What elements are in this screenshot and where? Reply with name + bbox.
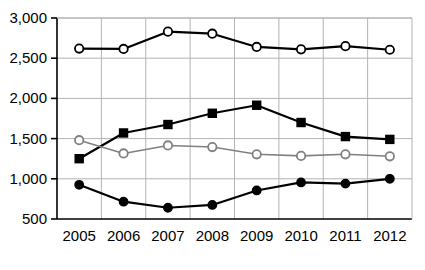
line-chart: 5001,0001,5002,0002,5003,000 20052006200…	[0, 0, 425, 270]
x-axis-tick-labels: 20052006200720082009201020112012	[63, 227, 407, 244]
data-point-open-circle	[386, 46, 394, 54]
x-tick-label: 2005	[63, 227, 96, 244]
y-tick-label: 3,000	[9, 9, 47, 26]
data-point-filled-circle	[208, 201, 216, 209]
data-point-filled-circle	[341, 179, 349, 187]
data-point-open-circle	[341, 42, 349, 50]
data-point-filled-circle	[252, 186, 260, 194]
data-point-square	[75, 155, 83, 163]
data-point-filled-circle	[164, 204, 172, 212]
data-point-open-circle	[75, 136, 83, 144]
y-tick-label: 2,000	[9, 89, 47, 106]
x-tick-label: 2010	[284, 227, 317, 244]
y-axis-tick-labels: 5001,0001,5002,0002,5003,000	[9, 9, 47, 227]
data-point-filled-circle	[119, 198, 127, 206]
x-tick-label: 2008	[196, 227, 229, 244]
data-point-open-circle	[119, 149, 127, 157]
data-point-square	[120, 129, 128, 137]
data-point-filled-circle	[386, 175, 394, 183]
y-tick-label: 2,500	[9, 49, 47, 66]
x-tick-label: 2009	[240, 227, 273, 244]
data-point-open-circle	[297, 45, 305, 53]
data-point-square	[297, 119, 305, 127]
y-tick-label: 1,000	[9, 170, 47, 187]
data-point-square	[386, 135, 394, 143]
data-point-square	[164, 121, 172, 129]
x-tick-label: 2011	[329, 227, 361, 244]
data-point-square	[253, 101, 261, 109]
data-point-filled-circle	[75, 181, 83, 189]
data-point-open-circle	[297, 152, 305, 160]
y-axis-ticks	[51, 18, 57, 219]
data-point-open-circle	[208, 29, 216, 37]
x-tick-label: 2007	[151, 227, 184, 244]
data-point-open-circle	[119, 45, 127, 53]
chart-canvas: 5001,0001,5002,0002,5003,000 20052006200…	[0, 0, 425, 270]
data-point-square	[341, 133, 349, 141]
x-tick-label: 2012	[373, 227, 406, 244]
data-point-filled-circle	[297, 178, 305, 186]
data-point-open-circle	[252, 150, 260, 158]
data-point-open-circle	[75, 44, 83, 52]
data-point-open-circle	[164, 141, 172, 149]
data-point-open-circle	[208, 143, 216, 151]
y-tick-label: 1,500	[9, 130, 47, 147]
x-tick-label: 2006	[107, 227, 140, 244]
data-point-open-circle	[252, 43, 260, 51]
data-point-square	[208, 109, 216, 117]
data-point-open-circle	[164, 27, 172, 35]
y-tick-label: 500	[22, 210, 47, 227]
data-point-open-circle	[386, 152, 394, 160]
data-point-open-circle	[341, 150, 349, 158]
